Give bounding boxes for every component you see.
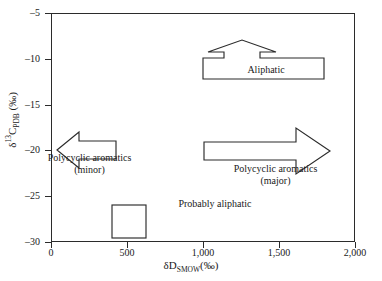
- y-tick-mark: [45, 105, 52, 106]
- x-axis-units: (‰): [200, 259, 218, 271]
- aliphatic-label: Aliphatic: [206, 64, 326, 76]
- polycyclic-aromatics-major-label: Polycyclic aromatics (major): [198, 163, 353, 186]
- major-label-line2: (major): [198, 175, 353, 187]
- y-tick-mark: [45, 13, 52, 14]
- y-tick-label: –5: [4, 8, 40, 18]
- minor-label-line1: Polycyclic aromatics: [12, 152, 167, 164]
- probably-aliphatic-label: Probably aliphatic: [150, 198, 280, 210]
- x-tick-label: 2,000: [332, 247, 378, 258]
- y-axis-units: (‰): [6, 92, 18, 110]
- x-tick-label: 1,500: [256, 247, 302, 258]
- y-axis-superscript: 13: [4, 135, 13, 143]
- x-tick-label: 0: [28, 247, 74, 258]
- y-tick-mark: [45, 59, 52, 60]
- y-axis-delta-symbol: δ: [6, 143, 18, 148]
- y-tick-label: –30: [4, 237, 40, 247]
- x-axis-subscript: SMOW: [177, 265, 200, 274]
- x-tick-label: 500: [104, 247, 150, 258]
- x-tick-label: 1,000: [180, 247, 226, 258]
- major-label-line1: Polycyclic aromatics: [198, 163, 353, 175]
- chart-figure: –5 –10 –15 –20 –25 –30 0 500 1,000 1,500…: [0, 0, 382, 281]
- y-tick-label: –25: [4, 191, 40, 201]
- minor-label-line2: (minor): [12, 164, 167, 176]
- polycyclic-aromatics-minor-label: Polycyclic aromatics (minor): [12, 152, 167, 175]
- x-axis-element: D: [169, 259, 177, 271]
- x-axis-label: δDSMOW(‰): [0, 259, 382, 276]
- y-axis-subscript: PDB: [12, 113, 21, 128]
- y-axis-element: C: [6, 128, 18, 135]
- y-tick-mark: [45, 196, 52, 197]
